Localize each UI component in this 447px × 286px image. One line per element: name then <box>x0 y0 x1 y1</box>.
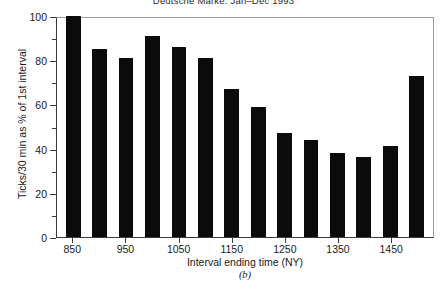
bar <box>172 47 187 237</box>
bar-slot <box>139 18 165 237</box>
bar-slot <box>192 18 218 237</box>
y-tick-label: 20 <box>35 188 47 200</box>
y-tick-major: 0 <box>50 238 56 239</box>
bar-slot <box>60 18 86 237</box>
bar <box>145 36 160 237</box>
chart-figure: Deutsche Marke, Jan–Dec 1993 Ticks/30 mi… <box>0 0 447 286</box>
bar <box>198 58 213 237</box>
bar <box>66 16 81 237</box>
x-tick-label: 1050 <box>167 243 190 255</box>
bar <box>119 58 134 237</box>
y-axis-label: Ticks/30 min as % of 1st interval <box>16 9 28 239</box>
bar <box>330 153 345 237</box>
y-tick-label: 60 <box>35 99 47 111</box>
y-tick-label: 40 <box>35 144 47 156</box>
bar-slot <box>377 18 403 237</box>
bar-slot <box>86 18 112 237</box>
bar-slot <box>324 18 350 237</box>
bar-slot <box>351 18 377 237</box>
bar-slot <box>271 18 297 237</box>
x-axis-label: Interval ending time (NY) <box>56 256 434 268</box>
panel-letter: (b) <box>56 269 434 280</box>
bar <box>277 133 292 237</box>
bar-slot <box>403 18 429 237</box>
x-tick-label: 950 <box>117 243 135 255</box>
bar <box>224 89 239 237</box>
chart-title: Deutsche Marke, Jan–Dec 1993 <box>0 0 447 4</box>
y-tick-label: 0 <box>41 232 47 244</box>
bar <box>304 140 319 237</box>
x-tick-label: 1450 <box>379 243 402 255</box>
x-tick-label: 1250 <box>273 243 296 255</box>
bar <box>251 107 266 237</box>
bar <box>356 157 371 237</box>
bar-series <box>57 18 433 237</box>
x-tick-label: 1150 <box>220 243 243 255</box>
bar <box>92 49 107 237</box>
x-tick-label: 850 <box>64 243 82 255</box>
bar-slot <box>219 18 245 237</box>
plot-area <box>56 17 434 238</box>
bar-slot <box>166 18 192 237</box>
bar <box>409 76 424 237</box>
bar-slot <box>113 18 139 237</box>
y-tick-label: 100 <box>29 11 47 23</box>
y-tick-label: 80 <box>35 55 47 67</box>
bar <box>383 146 398 237</box>
bar-slot <box>298 18 324 237</box>
x-tick-label: 1350 <box>326 243 349 255</box>
bar-slot <box>245 18 271 237</box>
